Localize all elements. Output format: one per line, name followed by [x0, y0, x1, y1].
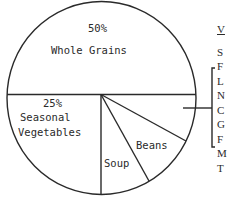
list-item: S — [217, 45, 227, 60]
list-item: F — [217, 132, 227, 147]
list-item: N — [217, 88, 227, 103]
label-soup: Soup — [104, 157, 129, 170]
label-veg-line1: Seasonal — [20, 111, 71, 124]
list-item: T — [217, 161, 227, 176]
label-veg-pct: 25% — [43, 97, 62, 110]
list-header: V — [217, 22, 227, 37]
list-item: F — [217, 59, 227, 74]
list-item: G — [217, 117, 227, 132]
list-item: M — [217, 146, 227, 161]
label-whole-grains: Whole Grains — [51, 44, 127, 57]
bracket — [212, 68, 215, 147]
side-list: V S F L N C G F M T — [217, 22, 227, 175]
label-veg-line2: Vegetables — [18, 126, 81, 139]
label-whole-grains-pct: 50% — [88, 22, 107, 35]
label-beans: Beans — [136, 139, 168, 152]
list-item: L — [217, 74, 227, 89]
list-item: C — [217, 103, 227, 118]
